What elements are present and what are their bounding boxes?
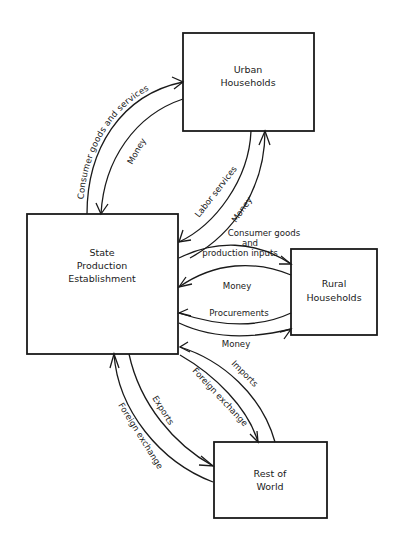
world-label-line2: World	[256, 481, 283, 492]
state-label-line3: Establishment	[68, 273, 136, 284]
node-state-production-establishment: State Production Establishment	[27, 214, 178, 354]
world-label-line1: Rest of	[254, 468, 288, 479]
label-money-rural-state: Money	[223, 281, 252, 291]
label-procurements: Procurements	[209, 308, 269, 318]
flow-state-to-rural-money	[179, 323, 291, 339]
urban-label-line1: Urban	[234, 64, 263, 75]
circular-flow-diagram: Urban Households State Production Establ…	[0, 0, 398, 547]
label-money-state-urban: Money	[229, 195, 254, 224]
label-exports: Exports	[150, 394, 176, 427]
state-label-line2: Production	[77, 260, 128, 271]
rural-label-line1: Rural	[322, 278, 347, 289]
label-imports: Imports	[230, 358, 261, 389]
label-goods-inputs-line3: production inputs	[202, 248, 278, 258]
rural-label-line2: Households	[306, 292, 361, 303]
node-urban-households: Urban Households	[183, 33, 314, 131]
node-rest-of-world: Rest of World	[214, 442, 327, 518]
urban-label-line2: Households	[220, 77, 275, 88]
label-money-urban-state: Money	[125, 136, 148, 166]
label-goods-inputs-line1: Consumer goods	[228, 228, 301, 238]
arrowhead-icon	[199, 456, 213, 466]
flow-state-to-urban-goods: Consumer goods and services	[76, 77, 183, 214]
label-goods-inputs-line2: and	[242, 238, 258, 248]
arrowhead-icon	[179, 309, 191, 316]
label-money-state-rural: Money	[222, 339, 251, 349]
node-rural-households: Rural Households	[291, 249, 377, 335]
label-foreign-exchange-world-state: Foreign exchange	[116, 401, 165, 471]
state-label-line1: State	[89, 247, 114, 258]
